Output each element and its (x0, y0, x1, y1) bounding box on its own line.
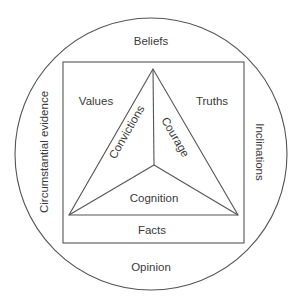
label-truths: Truths (196, 95, 228, 107)
outer-circle (15, 18, 287, 290)
spoke-left (69, 165, 154, 215)
label-circumstantial-evidence: Circumstantial evidence (38, 91, 50, 213)
label-values: Values (79, 95, 114, 107)
label-inclinations: Inclinations (254, 123, 266, 181)
label-facts: Facts (138, 224, 166, 236)
label-opinion: Opinion (131, 261, 171, 273)
label-beliefs: Beliefs (134, 35, 169, 47)
label-cognition: Cognition (130, 192, 179, 204)
label-convictions: Convictions (106, 103, 146, 161)
spoke-top (153, 69, 154, 165)
spoke-right (154, 165, 238, 215)
knowledge-diagram: Beliefs Opinion Circumstantial evidence … (0, 0, 301, 303)
label-courage: Courage (159, 115, 191, 159)
